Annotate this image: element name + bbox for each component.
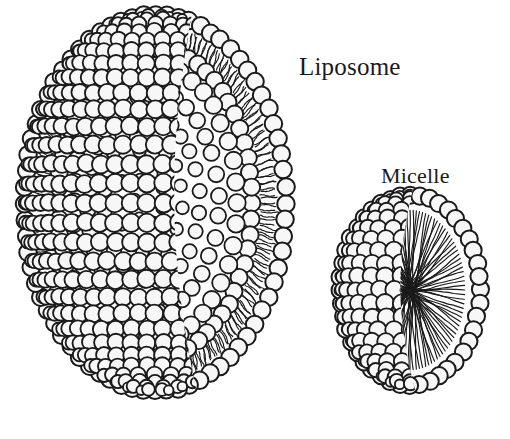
- liposome-label: Liposome: [299, 53, 401, 81]
- lipid-structures-figure: [0, 0, 510, 439]
- micelle-label: Micelle: [381, 163, 450, 189]
- liposome-structure: [16, 6, 295, 399]
- micelle-structure: [331, 187, 488, 394]
